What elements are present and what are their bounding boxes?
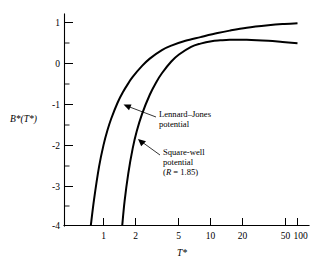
y-tick-label-neg3: -3 <box>52 182 60 192</box>
x-tick-label-100: 100 <box>293 231 308 241</box>
annotation-lennard-jones-line2: potential <box>159 119 190 129</box>
y-axis-label: B*(T*) <box>10 114 37 125</box>
x-axis-label-text: T* <box>177 248 187 258</box>
x-tick-labels: 1 2 5 10 20 50 100 <box>101 231 308 241</box>
y-tick-label-neg2: -2 <box>52 141 60 151</box>
y-tick-label-0: 0 <box>55 59 60 69</box>
x-tick-label-5: 5 <box>176 231 181 241</box>
annotation-lennard-jones-line1: Lennard–Jones <box>159 109 212 119</box>
chart-figure: 1 0 -1 -2 -3 -4 1 2 5 10 20 50 100 <box>0 0 321 268</box>
curve-lennard-jones <box>91 23 298 225</box>
x-tick-marks <box>104 218 298 226</box>
annotation-square-well-line2: potential <box>163 157 194 167</box>
y-tick-label-1: 1 <box>55 18 60 28</box>
y-axis-label-text: B*(T*) <box>10 114 37 125</box>
x-tick-label-20: 20 <box>238 231 248 241</box>
square-well-param-value: = 1.85) <box>171 167 198 177</box>
annotation-square-well: Square-well potential (R = 1.85) <box>163 147 205 177</box>
y-tick-label-neg1: -1 <box>52 100 60 110</box>
y-tick-marks <box>65 23 74 226</box>
annotation-leaders <box>124 104 161 155</box>
annotation-lennard-jones: Lennard–Jones potential <box>159 109 212 129</box>
x-axis-label: T* <box>177 248 187 258</box>
x-tick-label-50: 50 <box>281 231 291 241</box>
annotation-square-well-line1: Square-well <box>163 147 205 157</box>
annotation-square-well-line3: (R = 1.85) <box>163 167 198 177</box>
curve-square-well <box>122 40 297 226</box>
x-tick-label-2: 2 <box>133 231 138 241</box>
y-tick-labels: 1 0 -1 -2 -3 -4 <box>52 18 60 231</box>
leader-line-square-well <box>142 142 160 155</box>
arrow-icon-square-well <box>138 139 146 146</box>
x-tick-label-1: 1 <box>101 231 106 241</box>
y-tick-label-neg4: -4 <box>52 221 60 231</box>
chart-svg: 1 0 -1 -2 -3 -4 1 2 5 10 20 50 100 <box>0 0 321 268</box>
x-tick-label-10: 10 <box>206 231 216 241</box>
y-tick-marks-minor <box>65 43 70 206</box>
data-curves <box>91 23 298 225</box>
